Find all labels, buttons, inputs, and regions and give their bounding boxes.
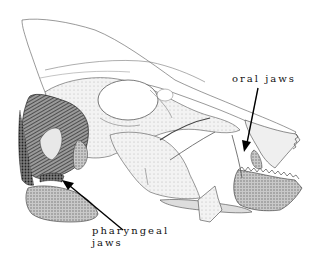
pharyngeal-jaws-label: pharyngeal jaws [92,225,169,249]
oral-jaws-arrowhead-icon [242,140,251,152]
pharyngeal-jaws-label-line1: pharyngeal [92,225,169,237]
pharyngeal-jaws-label-line2: jaws [92,237,169,249]
figure-canvas: oral jaws pharyngeal jaws [0,0,321,268]
oral-jaws-label: oral jaws [232,73,296,85]
